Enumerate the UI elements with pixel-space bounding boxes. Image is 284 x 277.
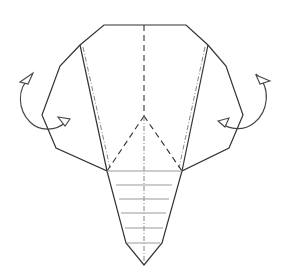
origami-diagram bbox=[0, 0, 284, 277]
outline bbox=[42, 25, 243, 265]
trunk-pleat-lines bbox=[107, 171, 182, 243]
side-flap-right bbox=[179, 45, 208, 171]
right-fold-arrow-icon bbox=[218, 74, 270, 129]
triangle-valley-folds bbox=[107, 116, 182, 171]
side-flap-left bbox=[80, 45, 110, 171]
